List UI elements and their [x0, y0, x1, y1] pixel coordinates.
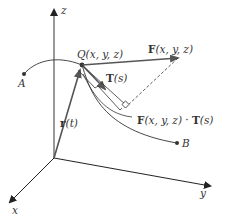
point-q-label: Q(x, y, z) — [77, 48, 123, 61]
field-vector-label: F(x, y, z) — [148, 43, 193, 55]
point-b-label: B — [181, 137, 190, 149]
coordinate-axes — [10, 10, 210, 202]
point-b — [175, 141, 179, 145]
point-a-label: A — [17, 77, 26, 89]
position-vector-label: r(t) — [60, 117, 78, 129]
y-axis — [54, 158, 210, 186]
x-axis-label: x — [12, 204, 18, 216]
projection-label: F(x, y, z) · T(s) — [137, 114, 213, 126]
y-axis-label: y — [199, 187, 207, 199]
curve-a-to-q — [24, 60, 82, 74]
point-a — [22, 72, 26, 76]
x-axis — [10, 158, 54, 202]
tangent-vector-label: T(s) — [106, 72, 127, 84]
projection-dashed-line — [127, 58, 178, 106]
z-axis-label: z — [60, 4, 67, 16]
position-vector-r — [54, 70, 80, 158]
line-integral-diagram: z y x Q(x, y, z) A B F(x, y, z) T(s) r(t… — [0, 0, 227, 220]
